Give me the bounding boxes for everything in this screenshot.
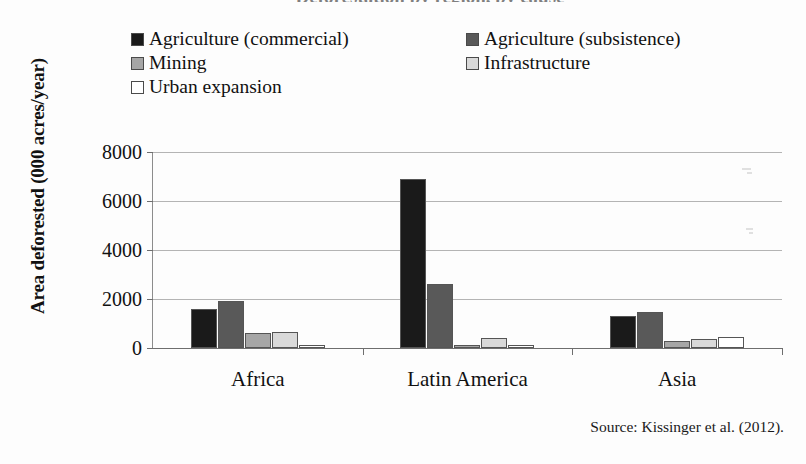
- legend-row: Mining Infrastructure: [131, 52, 791, 74]
- bar-group-asia: [572, 152, 782, 348]
- bar[interactable]: [245, 333, 271, 348]
- x-axis-divider: [363, 348, 364, 355]
- y-tick-label: 0: [132, 338, 142, 358]
- y-axis-title: Area deforested (000 acres/year): [27, 31, 49, 341]
- bar[interactable]: [664, 341, 690, 348]
- y-tick-mark: [147, 348, 153, 349]
- x-axis-label-latin-america: Latin America: [407, 367, 528, 392]
- chart-title: Deforestation by region, by cause: [120, 0, 740, 2]
- y-tick-label: 2000: [102, 289, 142, 309]
- legend-item-label: Urban expansion: [149, 76, 282, 98]
- legend-swatch-icon: [131, 33, 144, 46]
- legend-item-label: Agriculture (commercial): [149, 28, 349, 50]
- bar-group-africa: [153, 152, 363, 348]
- legend-item-label: Infrastructure: [484, 52, 590, 74]
- legend-row: Agriculture (commercial) Agriculture (su…: [131, 28, 791, 50]
- bar[interactable]: [427, 284, 453, 348]
- bar-group-latin-america: [363, 152, 573, 348]
- legend-swatch-icon: [466, 57, 479, 70]
- legend-swatch-icon: [466, 33, 479, 46]
- chart-figure: Deforestation by region, by cause Area d…: [0, 0, 806, 464]
- bar[interactable]: [218, 301, 244, 348]
- legend-swatch-icon: [131, 81, 144, 94]
- bar[interactable]: [481, 338, 507, 348]
- legend-row: Urban expansion: [131, 76, 791, 98]
- y-tick-label: 6000: [102, 191, 142, 211]
- legend-item-urban-expansion[interactable]: Urban expansion: [131, 76, 466, 98]
- legend-item-infrastructure[interactable]: Infrastructure: [466, 52, 590, 74]
- bar[interactable]: [299, 345, 325, 348]
- legend-item-label: Mining: [149, 52, 206, 74]
- bar[interactable]: [718, 337, 744, 349]
- bar[interactable]: [691, 339, 717, 348]
- bar[interactable]: [191, 309, 217, 348]
- bar[interactable]: [637, 312, 663, 348]
- y-tick-label: 4000: [102, 240, 142, 260]
- x-axis-label-asia: Asia: [658, 367, 697, 392]
- legend-item-agriculture-commercial[interactable]: Agriculture (commercial): [131, 28, 466, 50]
- plot-area: 02000400060008000AfricaLatin AmericaAsia: [152, 152, 782, 349]
- chart-legend: Agriculture (commercial) Agriculture (su…: [131, 28, 791, 100]
- bar[interactable]: [610, 316, 636, 348]
- bar[interactable]: [400, 179, 426, 348]
- bar[interactable]: [454, 345, 480, 348]
- x-axis-end-tick: [782, 348, 783, 355]
- legend-item-mining[interactable]: Mining: [131, 52, 466, 74]
- bar[interactable]: [272, 332, 298, 348]
- legend-item-agriculture-subsistence[interactable]: Agriculture (subsistence): [466, 28, 681, 50]
- legend-item-label: Agriculture (subsistence): [484, 28, 681, 50]
- bar[interactable]: [508, 345, 534, 348]
- y-tick-label: 8000: [102, 142, 142, 162]
- x-axis-divider: [572, 348, 573, 355]
- source-note: Source: Kissinger et al. (2012).: [590, 418, 784, 436]
- legend-swatch-icon: [131, 57, 144, 70]
- x-axis-label-africa: Africa: [231, 367, 285, 392]
